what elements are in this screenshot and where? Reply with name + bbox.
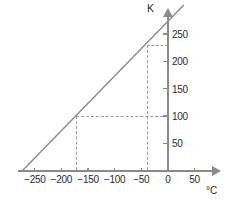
y-tick-label: 100 [172, 110, 188, 121]
y-tick-label: 200 [172, 56, 188, 67]
y-tick-mark [163, 61, 168, 62]
y-tick-label: 250 [172, 29, 188, 40]
x-tick-mark [34, 168, 35, 172]
x-tick-mark [194, 168, 195, 172]
x-tick-mark [61, 168, 62, 172]
y-tick-label: 150 [172, 83, 188, 94]
y-tick-mark [163, 33, 168, 34]
x-tick-label: −200 [51, 174, 72, 185]
y-tick-mark [163, 115, 168, 116]
x-tick-label: −100 [104, 174, 125, 185]
x-tick-label: −150 [77, 174, 98, 185]
x-tick-mark [114, 168, 115, 172]
y-tick-mark [163, 88, 168, 89]
x-tick-label: 50 [189, 174, 200, 185]
x-tick-label: −250 [24, 174, 45, 185]
y-tick-label: 50 [172, 138, 183, 149]
x-tick-mark [141, 168, 142, 172]
y-tick-mark [163, 143, 168, 144]
x-tick-mark [87, 168, 88, 172]
x-tick-mark [167, 168, 168, 172]
x-tick-label: −50 [133, 174, 149, 185]
temperature-conversion-chart: K °C −250−200−150−100−500505010015020025… [0, 0, 235, 201]
x-tick-label: 0 [165, 174, 170, 185]
